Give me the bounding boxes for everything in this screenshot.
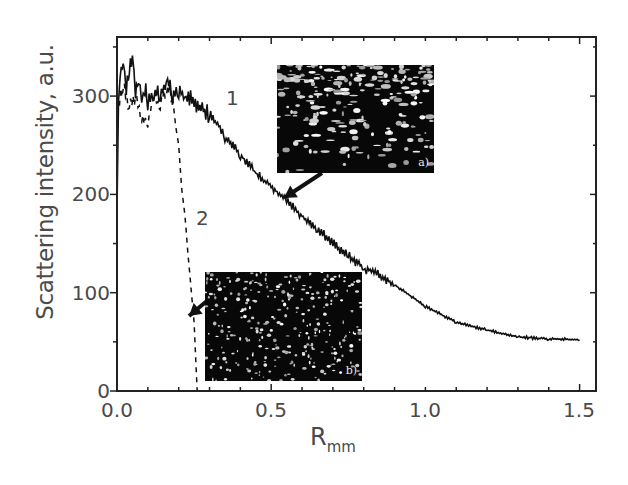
x-axis-label-sub: mm (327, 438, 356, 456)
y-tick-200: 200 (72, 182, 110, 206)
inset-b-label: b) (346, 364, 357, 377)
x-axis-label-main: R (310, 423, 327, 451)
curve-1-label: 1 (226, 86, 239, 110)
inset-a-texture (277, 65, 434, 173)
x-tick-0-5: 0.5 (255, 398, 287, 422)
y-tick-100: 100 (72, 281, 110, 305)
curve-2-label: 2 (196, 206, 209, 230)
x-tick-0: 0.0 (101, 398, 133, 422)
inset-b-texture (205, 272, 362, 381)
curve-2 (117, 84, 197, 391)
y-tick-300: 300 (72, 84, 110, 108)
x-tick-1-5: 1.5 (563, 398, 595, 422)
x-axis-label: Rmm (310, 423, 356, 456)
inset-a-label: a) (418, 156, 429, 169)
y-axis-label: Scattering intensity, a.u. (32, 44, 58, 320)
inset-image-b: b) (205, 272, 362, 381)
x-tick-1-0: 1.0 (409, 398, 441, 422)
inset-image-a: a) (277, 65, 434, 173)
